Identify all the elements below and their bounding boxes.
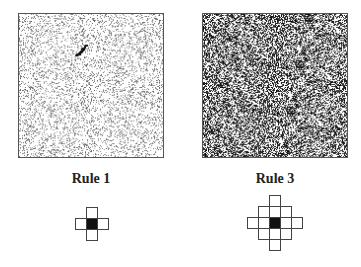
rule-3-simulation-panel xyxy=(202,13,348,158)
neighbor-cell xyxy=(269,239,281,251)
rule-1-simulation-panel xyxy=(18,13,164,158)
neighbor-cell xyxy=(280,228,292,240)
neighbor-cell xyxy=(97,218,109,230)
rule-3-label: Rule 3 xyxy=(225,171,325,187)
neighbor-cell xyxy=(86,229,98,241)
rule-1-label: Rule 1 xyxy=(41,171,141,187)
rule-1-noise-pattern xyxy=(19,14,163,157)
neighbor-cell xyxy=(291,217,303,229)
rule-3-noise-pattern xyxy=(203,14,347,157)
